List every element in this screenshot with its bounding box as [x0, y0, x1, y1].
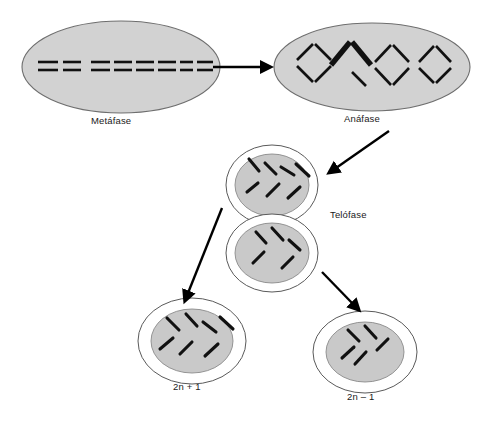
cell-daughter-monosomy [313, 311, 417, 393]
arrow-telophase-to-trisomy [188, 208, 222, 293]
label-metaphase: Metáfase [91, 115, 131, 126]
arrow-anaphase-to-telophase [336, 131, 389, 168]
diagram-svg [0, 0, 485, 421]
label-daughter-monosomy: 2n – 1 [347, 391, 374, 402]
label-anaphase: Anáfase [344, 113, 380, 124]
arrow-telophase-to-monosomy [322, 272, 353, 304]
diagram-canvas: Metáfase Anáfase Telófase 2n + 1 2n – 1 [0, 0, 485, 421]
label-daughter-trisomy: 2n + 1 [173, 381, 201, 392]
cell-anaphase [274, 23, 470, 111]
cell-metaphase [22, 21, 220, 113]
cell-telophase [226, 145, 318, 292]
label-telophase: Telófase [330, 209, 367, 220]
cell-daughter-trisomy [138, 298, 246, 384]
